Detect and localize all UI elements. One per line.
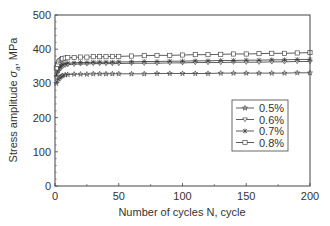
x-axis-label: Number of cycles N, cycle (118, 206, 245, 218)
legend-label: 0.6% (259, 114, 284, 126)
legend: 0.5%0.6%0.7%0.8% (232, 100, 288, 151)
legend-label: 0.8% (259, 137, 284, 149)
plot-area (54, 51, 313, 86)
x-tick-label: 0 (52, 190, 58, 202)
y-tick-label: 500 (33, 9, 51, 21)
legend-label: 0.5% (259, 102, 284, 114)
y-tick-label: 300 (33, 77, 51, 89)
y-axis-label: Stress amplitude σa, MPa (7, 37, 22, 163)
x-tick-label: 50 (113, 190, 125, 202)
y-tick-label: 0 (45, 180, 51, 192)
y-tick-label: 400 (33, 43, 51, 55)
x-tick-label: 150 (237, 190, 255, 202)
x-tick-label: 100 (173, 190, 191, 202)
y-tick-label: 100 (33, 146, 51, 158)
series-0-5pct (54, 70, 313, 85)
x-tick-label: 200 (301, 190, 319, 202)
stress-amplitude-chart: 0501001502000100200300400500 0.5%0.6%0.7… (0, 0, 330, 226)
legend-label: 0.7% (259, 125, 284, 137)
y-tick-label: 200 (33, 112, 51, 124)
